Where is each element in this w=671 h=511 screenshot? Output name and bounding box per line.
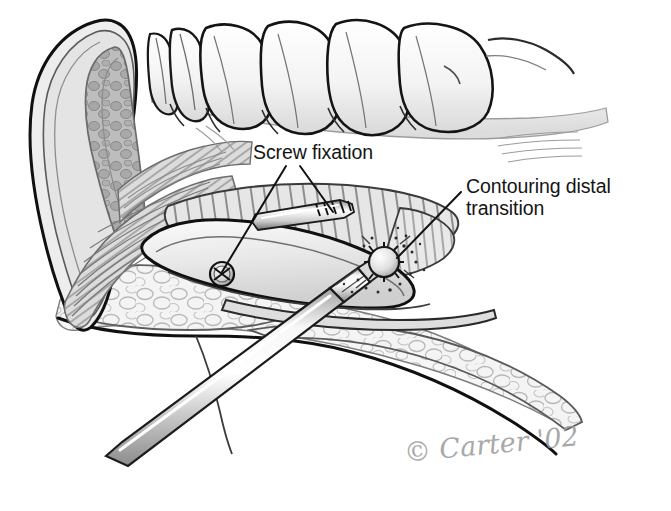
label-contouring-distal-transition: Contouring distaltransition bbox=[466, 176, 611, 220]
screw-head bbox=[210, 262, 234, 286]
label-screw-fixation: Screw fixation bbox=[253, 142, 373, 164]
medical-illustration-figure: Screw fixation Contouring distaltransiti… bbox=[0, 0, 671, 511]
round-bur-head bbox=[369, 247, 399, 277]
label-contour-line2: transition bbox=[466, 197, 544, 219]
label-contour-line1: Contouring distal bbox=[466, 175, 611, 197]
